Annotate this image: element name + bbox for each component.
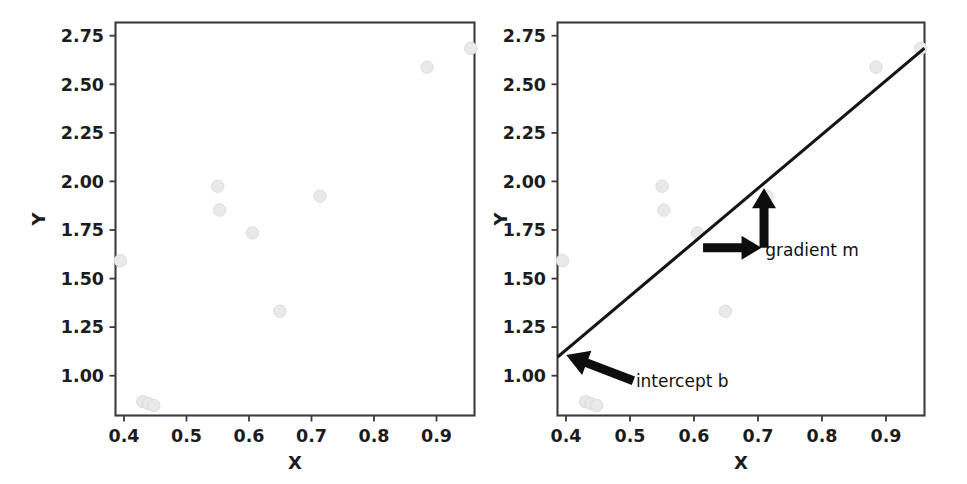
x-tick-label: 0.6 xyxy=(678,426,709,446)
y-tick-label: 2.00 xyxy=(503,172,546,192)
y-tick-label: 1.00 xyxy=(61,366,104,386)
right-scatter-points xyxy=(556,42,927,412)
annotation-intercept xyxy=(566,351,635,385)
data-point xyxy=(590,399,602,411)
x-tick-label: 0.5 xyxy=(614,426,645,446)
left-y-axis-title: Y xyxy=(28,212,49,227)
y-tick-label: 1.50 xyxy=(61,269,104,289)
x-tick-label: 0.4 xyxy=(108,426,139,446)
data-point xyxy=(656,180,668,192)
data-point xyxy=(213,204,225,216)
data-point xyxy=(212,180,224,192)
left-x-tick-labels: 0.4 0.5 0.6 0.7 0.8 0.9 xyxy=(108,426,452,446)
data-point xyxy=(421,61,433,73)
y-tick-label: 1.00 xyxy=(503,366,546,386)
data-point xyxy=(870,61,882,73)
right-y-axis-title: Y xyxy=(490,212,511,227)
data-point xyxy=(114,254,126,266)
gradient-label: gradient m xyxy=(765,240,859,260)
intercept-label: intercept b xyxy=(636,371,729,391)
x-tick-label: 0.9 xyxy=(421,426,452,446)
data-point xyxy=(246,227,258,239)
regression-line-group xyxy=(558,48,925,357)
panel-scatter-raw: 0.4 0.5 0.6 0.7 0.8 0.9 1.00 1.25 1.50 1… xyxy=(0,0,483,484)
x-tick-label: 0.7 xyxy=(742,426,773,446)
left-x-axis-title: X xyxy=(288,452,302,473)
right-y-tick-labels: 1.00 1.25 1.50 1.75 2.00 2.25 2.50 2.75 xyxy=(503,26,546,386)
data-point xyxy=(465,42,477,54)
y-tick-label: 1.50 xyxy=(503,269,546,289)
y-tick-label: 1.75 xyxy=(61,220,104,240)
data-point xyxy=(274,305,286,317)
panel-scatter-with-fit: 0.4 0.5 0.6 0.7 0.8 0.9 1.00 1.25 1.50 1… xyxy=(483,0,966,484)
x-tick-label: 0.4 xyxy=(550,426,581,446)
x-tick-label: 0.5 xyxy=(171,426,202,446)
y-tick-label: 2.75 xyxy=(503,26,546,46)
y-tick-label: 2.00 xyxy=(61,172,104,192)
figure-two-panel-regression: 0.4 0.5 0.6 0.7 0.8 0.9 1.00 1.25 1.50 1… xyxy=(0,0,967,484)
y-tick-label: 2.25 xyxy=(61,123,104,143)
y-tick-label: 1.25 xyxy=(503,317,546,337)
left-plot-svg: 0.4 0.5 0.6 0.7 0.8 0.9 1.00 1.25 1.50 1… xyxy=(0,0,483,484)
intercept-arrow-icon xyxy=(566,351,635,385)
left-axes-frame xyxy=(116,23,475,416)
right-x-tick-labels: 0.4 0.5 0.6 0.7 0.8 0.9 xyxy=(550,426,901,446)
regression-fit-line xyxy=(558,48,925,357)
right-plot-svg: 0.4 0.5 0.6 0.7 0.8 0.9 1.00 1.25 1.50 1… xyxy=(483,0,966,484)
run-arrow-icon xyxy=(703,236,761,260)
data-point xyxy=(556,254,568,266)
y-tick-label: 1.25 xyxy=(61,317,104,337)
left-scatter-points xyxy=(114,42,477,412)
data-point xyxy=(658,204,670,216)
y-tick-label: 2.50 xyxy=(503,75,546,95)
right-axes-frame xyxy=(558,23,925,416)
data-point xyxy=(719,305,731,317)
y-tick-label: 2.25 xyxy=(503,123,546,143)
data-point xyxy=(148,399,160,411)
y-tick-label: 2.75 xyxy=(61,26,104,46)
right-x-axis-title: X xyxy=(734,452,748,473)
x-tick-label: 0.6 xyxy=(233,426,264,446)
x-tick-label: 0.7 xyxy=(296,426,327,446)
x-tick-label: 0.8 xyxy=(358,426,389,446)
x-tick-label: 0.9 xyxy=(870,426,901,446)
y-tick-label: 2.50 xyxy=(61,75,104,95)
data-point xyxy=(314,190,326,202)
x-tick-label: 0.8 xyxy=(806,426,837,446)
left-y-tick-labels: 1.00 1.25 1.50 1.75 2.00 2.25 2.50 2.75 xyxy=(61,26,104,386)
